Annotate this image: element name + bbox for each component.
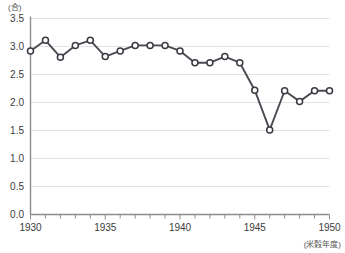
x-tick-label: 1930 bbox=[11, 223, 51, 233]
data-point bbox=[267, 127, 273, 133]
data-point bbox=[207, 60, 213, 66]
data-point bbox=[57, 54, 63, 60]
x-tick-label: 1950 bbox=[310, 223, 345, 233]
x-tick-label: 1940 bbox=[160, 223, 200, 233]
chart-plot-area bbox=[0, 0, 345, 253]
y-tick-label: 2.5 bbox=[2, 70, 24, 80]
data-point-markers bbox=[28, 37, 333, 133]
data-point bbox=[177, 48, 183, 54]
data-point bbox=[327, 88, 333, 94]
x-axis-ticks bbox=[31, 215, 330, 220]
data-point bbox=[132, 42, 138, 48]
data-point bbox=[42, 37, 48, 43]
data-point bbox=[147, 42, 153, 48]
data-point bbox=[117, 48, 123, 54]
y-tick-label: 3.5 bbox=[2, 14, 24, 24]
x-axis-unit-label: (米穀年度) bbox=[304, 238, 341, 249]
y-tick-label: 3.0 bbox=[2, 42, 24, 52]
data-point bbox=[102, 54, 108, 60]
data-point bbox=[297, 98, 303, 104]
data-point bbox=[28, 48, 34, 54]
data-point bbox=[192, 60, 198, 66]
data-point bbox=[282, 88, 288, 94]
y-tick-label: 1.0 bbox=[2, 154, 24, 164]
data-point bbox=[252, 87, 258, 93]
data-point bbox=[87, 37, 93, 43]
x-tick-label: 1935 bbox=[85, 223, 125, 233]
data-point bbox=[72, 42, 78, 48]
y-tick-label: 0.5 bbox=[2, 182, 24, 192]
y-tick-label: 0.0 bbox=[2, 210, 24, 220]
data-point bbox=[222, 54, 228, 60]
rice-consumption-line-chart: (合) (米穀年度) 3.53.02.52.01.51.00.50.019301… bbox=[0, 0, 345, 253]
y-tick-label: 2.0 bbox=[2, 98, 24, 108]
x-tick-label: 1945 bbox=[235, 223, 275, 233]
data-point bbox=[237, 60, 243, 66]
data-point bbox=[162, 42, 168, 48]
y-tick-label: 1.5 bbox=[2, 126, 24, 136]
data-point bbox=[312, 88, 318, 94]
